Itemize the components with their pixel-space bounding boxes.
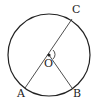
label-c: C	[72, 3, 80, 16]
label-a: A	[16, 87, 26, 100]
label-b: B	[73, 87, 81, 100]
label-o: O	[44, 57, 53, 70]
circle-diagram: C O A B	[0, 0, 97, 102]
angle-mark-cob	[53, 50, 55, 59]
